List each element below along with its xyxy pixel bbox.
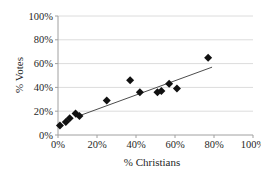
y-tick-label: 60% — [34, 58, 54, 69]
y-axis-title: % Votes — [13, 57, 25, 93]
x-tick-label: 100% — [241, 139, 261, 150]
data-point-diamond — [204, 54, 212, 62]
x-tick-label: 80% — [204, 139, 224, 150]
x-tick-label: 60% — [165, 139, 185, 150]
y-tick-label: 20% — [34, 106, 54, 117]
data-point-diamond — [165, 80, 173, 88]
y-tick-label: 100% — [29, 11, 54, 22]
x-tick-label: 20% — [87, 139, 107, 150]
data-point-diamond — [103, 96, 111, 104]
x-axis-title: % Christians — [124, 156, 181, 168]
x-tick-label: 0% — [51, 139, 65, 150]
data-point-diamond — [126, 76, 134, 84]
data-point-diamond — [173, 85, 181, 93]
y-tick-label: 80% — [34, 34, 54, 45]
x-tick-label: 40% — [126, 139, 146, 150]
y-tick-label: 40% — [34, 82, 54, 93]
scatter-chart: % Votes 0%20%40%60%80%100%0%20%40%60%80%… — [0, 0, 261, 177]
plot-area: 0%20%40%60%80%100%0%20%40%60%80%100% — [0, 0, 261, 177]
